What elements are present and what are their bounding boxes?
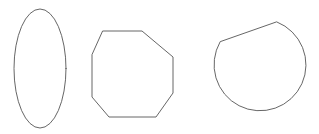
shapes-canvas-root — [0, 0, 319, 134]
shapes-svg-canvas — [0, 0, 319, 134]
canvas-background — [0, 0, 319, 134]
